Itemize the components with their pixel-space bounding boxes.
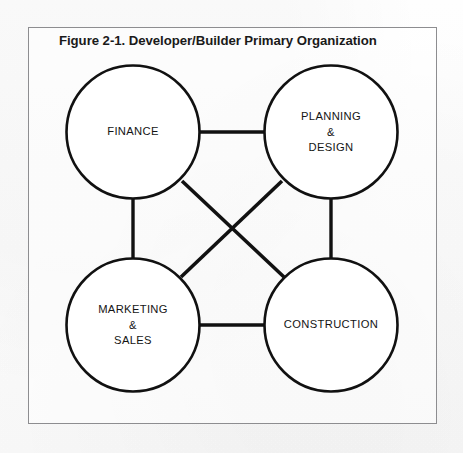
node-finance-circle[interactable] [67, 66, 200, 199]
node-construction-circle[interactable] [265, 259, 398, 392]
organization-diagram [0, 0, 463, 453]
node-planning-circle[interactable] [265, 66, 398, 199]
node-marketing-circle[interactable] [67, 259, 200, 392]
